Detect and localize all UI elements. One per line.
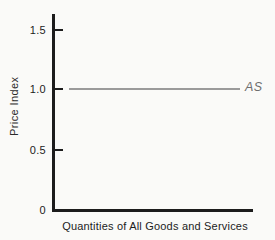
y-tick-label-0: 0	[30, 204, 46, 216]
y-axis-title: Price Index	[8, 64, 20, 148]
as-supply-line	[69, 88, 240, 90]
y-tick-label-1-0: 1.0	[22, 83, 46, 95]
y-tick-0-5	[54, 149, 63, 151]
x-axis-line	[52, 209, 253, 212]
y-tick-1-0	[54, 88, 63, 90]
y-tick-label-0-5: 0.5	[22, 144, 46, 156]
as-curve-chart: Price Index 1.5 1.0 0.5 0 AS Quantities …	[0, 0, 275, 240]
as-curve-label: AS	[245, 80, 263, 94]
y-axis-line	[52, 14, 55, 212]
y-tick-1-5	[54, 29, 63, 31]
x-axis-title: Quantities of All Goods and Services	[48, 220, 262, 232]
y-tick-label-1-5: 1.5	[22, 24, 46, 36]
